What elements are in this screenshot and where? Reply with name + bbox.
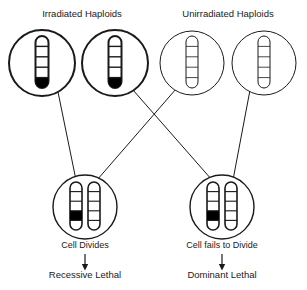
haploid-lethal-diagram: Irradiated HaploidsUnirradiated Haploids… <box>0 0 307 290</box>
cells-layer <box>9 30 296 239</box>
header-irradiated-haploids: Irradiated Haploids <box>42 8 122 19</box>
chromosome-1 <box>70 182 82 230</box>
caption-zygote-divides: Cell Divides <box>61 240 109 250</box>
chromosome-1 <box>207 182 219 230</box>
diagram-canvas: Irradiated HaploidsUnirradiated Haploids… <box>0 0 307 290</box>
chromosome-1 <box>36 36 49 88</box>
haploid-cell-unirradiated-haploid-2[interactable] <box>232 31 296 95</box>
cross-unirradiated2-to-right <box>233 90 250 180</box>
chromosome-1 <box>109 36 122 88</box>
cross-unirradiated1-to-left <box>97 89 176 180</box>
header-unirradiated-haploids: Unirradiated Haploids <box>182 8 274 19</box>
cross-irradiated2-to-right <box>133 90 212 180</box>
chromosome-body <box>258 36 270 88</box>
chromosome-body <box>88 182 100 230</box>
cell-membrane <box>190 175 254 239</box>
chromosome-body <box>186 36 198 88</box>
zygote-cell-zygote-divides[interactable] <box>53 175 117 239</box>
chromosome-2 <box>225 182 237 230</box>
haploid-cell-unirradiated-haploid-1[interactable] <box>160 31 224 95</box>
cross-lines-layer <box>58 89 250 180</box>
cell-membrane <box>53 175 117 239</box>
chromosome-body <box>70 182 82 230</box>
chromosome-1 <box>258 36 270 88</box>
chromosome-dark-band <box>207 211 219 221</box>
outcome-zygote-fails-to-divide: Dominant Lethal <box>187 269 256 280</box>
chromosome-2 <box>88 182 100 230</box>
zygote-cell-zygote-fails-to-divide[interactable] <box>190 175 254 239</box>
haploid-cell-irradiated-haploid-2[interactable] <box>82 30 148 96</box>
caption-zygote-fails-to-divide: Cell fails to Divide <box>186 240 258 250</box>
haploid-cell-irradiated-haploid-1[interactable] <box>9 30 75 96</box>
chromosome-body <box>207 182 219 230</box>
chromosome-dark-band <box>70 211 82 221</box>
chromosome-body <box>225 182 237 230</box>
chromosome-1 <box>186 36 198 88</box>
cross-irradiated1-to-left <box>58 92 76 180</box>
outcome-zygote-divides: Recessive Lethal <box>49 269 121 280</box>
